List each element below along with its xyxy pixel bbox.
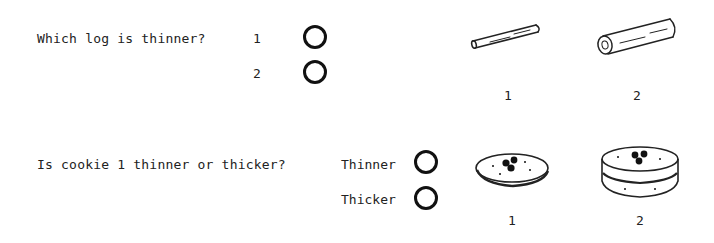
question-2-option-thicker-label: Thicker xyxy=(341,192,396,207)
cookie-2-label: 2 xyxy=(630,213,650,228)
question-1-text: Which log is thinner? xyxy=(37,31,206,46)
thick-log-icon xyxy=(595,15,680,60)
question-2-option-thinner-radio[interactable] xyxy=(414,150,438,174)
question-2-option-thicker-radio[interactable] xyxy=(414,186,438,210)
question-1-option-1-label: 1 xyxy=(253,31,261,46)
log-2-label: 2 xyxy=(627,88,647,103)
thick-cookie-icon xyxy=(600,145,680,201)
question-2-option-thinner-label: Thinner xyxy=(341,157,396,172)
question-2-text: Is cookie 1 thinner or thicker? xyxy=(37,157,286,172)
log-1-label: 1 xyxy=(498,88,518,103)
question-1-option-1-radio[interactable] xyxy=(303,25,327,49)
thin-cookie-icon xyxy=(475,150,551,192)
question-1-option-2-radio[interactable] xyxy=(303,60,327,84)
question-1-option-2-label: 2 xyxy=(253,66,261,81)
thin-log-icon xyxy=(470,22,550,52)
cookie-1-label: 1 xyxy=(502,213,522,228)
